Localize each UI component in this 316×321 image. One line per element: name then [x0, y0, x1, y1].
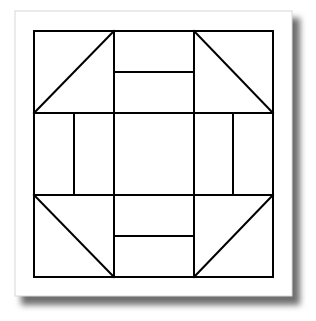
quilt-block-diagram — [0, 0, 316, 321]
paper-sheet — [15, 11, 292, 296]
